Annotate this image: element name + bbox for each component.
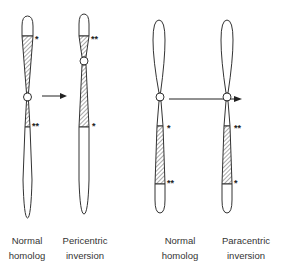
centromere — [80, 57, 88, 65]
lower-arm-white — [224, 101, 230, 126]
inversion-diagram: * ** ** * * ** — [0, 0, 294, 270]
centromere — [223, 93, 231, 101]
label-line1: Pericentric — [50, 233, 120, 248]
upper-arm — [221, 20, 233, 93]
marker-upper: * — [167, 123, 171, 133]
label-paracentric-inversion: Paracentric inversion — [211, 233, 281, 263]
lower-arm — [23, 127, 32, 218]
chromosome-pericentric-inversion: ** * — [79, 14, 99, 214]
label-pericentric-inversion: Pericentric inversion — [50, 233, 120, 263]
bottom-cap — [222, 184, 232, 213]
bottom-cap — [155, 184, 165, 213]
upper-arm — [153, 20, 165, 93]
hatched-region — [222, 126, 232, 184]
label-line1: Normal — [145, 233, 215, 248]
marker-upper: * — [35, 34, 39, 44]
marker-lower: * — [234, 178, 238, 188]
marker-upper: ** — [91, 34, 99, 44]
marker-lower: * — [92, 121, 96, 131]
centromere — [156, 93, 164, 101]
chromosome-normal-paracentric: * ** — [153, 20, 175, 213]
marker-lower: ** — [167, 178, 175, 188]
hatched-region — [155, 126, 165, 184]
label-line2: homolog — [145, 248, 215, 263]
lower-arm — [79, 127, 89, 214]
hatched-region-upper — [79, 36, 89, 57]
top-cap — [22, 16, 33, 36]
hatched-region-lower — [25, 101, 30, 127]
hatched-region-upper — [22, 36, 33, 93]
centromere — [24, 93, 32, 101]
hatched-region-lower — [79, 65, 89, 127]
label-line1: Paracentric — [211, 233, 281, 248]
label-normal-homolog-2: Normal homolog — [145, 233, 215, 263]
top-cap — [79, 14, 89, 36]
marker-upper: ** — [234, 123, 242, 133]
label-line2: inversion — [50, 248, 120, 263]
chromosome-paracentric-inversion: ** * — [221, 20, 242, 213]
label-line2: inversion — [211, 248, 281, 263]
chromosome-normal-pericentric: * ** — [22, 16, 40, 218]
marker-lower: ** — [32, 121, 40, 131]
lower-arm-white — [157, 101, 163, 126]
arrow-pericentric — [42, 93, 67, 99]
